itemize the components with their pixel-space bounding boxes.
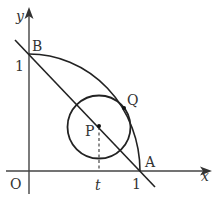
point-P-label: P <box>85 123 94 139</box>
diagram-canvas: y x O 1 1 t B A P Q <box>0 0 219 205</box>
y-tick-label: 1 <box>15 58 24 74</box>
t-label: t <box>95 177 101 193</box>
y-axis-label: y <box>15 8 25 24</box>
point-P <box>97 124 101 128</box>
point-Q-label: Q <box>127 92 138 108</box>
line-AB <box>15 40 155 187</box>
point-Q <box>122 106 126 110</box>
point-B-label: B <box>32 38 42 54</box>
origin-label: O <box>10 176 21 192</box>
point-A-label: A <box>144 154 156 170</box>
x-axis-label: x <box>201 168 209 184</box>
x-tick-label: 1 <box>132 176 141 192</box>
